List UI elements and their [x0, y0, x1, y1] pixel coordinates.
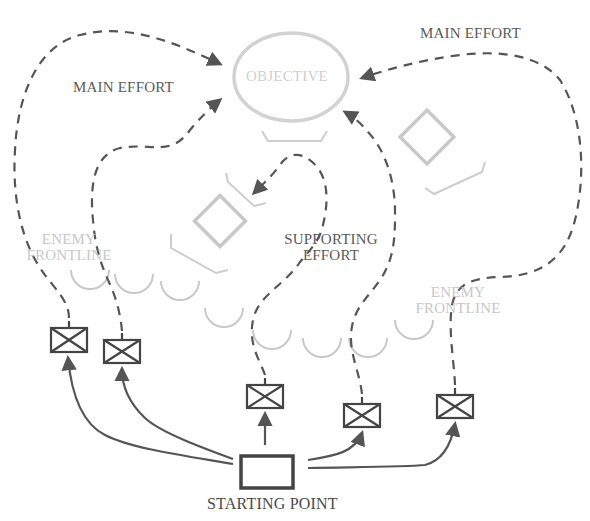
enemy-frontline-label-right: ENEMY FRONTLINE — [410, 285, 506, 316]
main-effort-label-right: MAIN EFFORT — [420, 26, 521, 41]
unit-4 — [344, 397, 380, 427]
main-effort-path-right — [362, 53, 581, 385]
unit-2 — [104, 333, 140, 363]
unit-1 — [51, 321, 87, 352]
enemy-frontline-left-line1: ENEMY — [20, 232, 118, 247]
starting-point-label: STARTING POINT — [207, 496, 338, 512]
obstacle-bracket-objective — [262, 131, 327, 141]
enemy-frontline-left-line2: FRONTLINE — [20, 248, 118, 263]
supporting-effort-line2: EFFORT — [280, 248, 382, 263]
supporting-effort-line1: SUPPORTING — [280, 232, 382, 247]
enemy-frontline-label-left: ENEMY FRONTLINE — [20, 232, 118, 263]
supporting-effort-path — [252, 155, 327, 375]
enemy-frontline-right-line2: FRONTLINE — [410, 301, 506, 316]
enemy-position-center — [171, 173, 266, 273]
diamond-icon — [400, 110, 454, 164]
unit-5 — [437, 388, 473, 418]
main-effort-path-left-outer — [14, 31, 220, 318]
diamond-icon — [195, 196, 246, 247]
bracket-icon — [425, 162, 485, 194]
deploy-arrow-unit-5 — [308, 424, 455, 468]
deploy-arrow-unit-4 — [308, 433, 362, 460]
supporting-effort-label: SUPPORTING EFFORT — [280, 232, 382, 263]
enemy-frontline-right-line1: ENEMY — [410, 285, 506, 300]
deploy-arrow-unit-1 — [68, 358, 233, 464]
bracket-icon — [226, 173, 266, 206]
friendly-units — [51, 321, 473, 427]
deployment-arrows — [68, 358, 455, 468]
main-effort-label-left: MAIN EFFORT — [73, 80, 174, 95]
enemy-position-right — [400, 110, 485, 194]
starting-point-box — [241, 456, 293, 488]
unit-3 — [247, 378, 283, 408]
bracket-icon — [171, 234, 228, 273]
objective-label: OBJECTIVE — [246, 69, 328, 84]
